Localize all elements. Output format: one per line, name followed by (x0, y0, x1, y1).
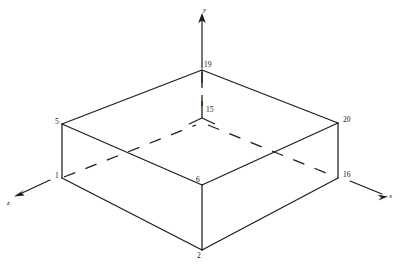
node-label-2: 2 (197, 252, 201, 260)
diagram-canvas (0, 0, 400, 264)
edge-1-15-hidden (64, 125, 196, 177)
x-axis-arrowhead (378, 195, 388, 201)
z-axis-line (22, 180, 50, 193)
node-label-6: 6 (196, 176, 200, 184)
node-label-5: 5 (55, 118, 59, 126)
axes-group (14, 13, 388, 201)
node-label-16: 16 (343, 171, 351, 179)
node-label-20: 20 (343, 116, 351, 124)
edge-19-20 (202, 70, 338, 123)
edge-6-20 (202, 123, 338, 185)
hidden-edges (64, 72, 336, 177)
edge-5-19 (62, 70, 202, 124)
axis-label-x: x (389, 193, 392, 200)
isometric-block-diagram: 19 15 5 20 1 16 6 2 y x z (0, 0, 400, 264)
axis-label-y: y (203, 7, 206, 14)
node-15-stub-right (202, 118, 215, 124)
node-label-1: 1 (55, 172, 59, 180)
edge-2-16 (202, 178, 338, 250)
edge-5-6 (62, 124, 202, 185)
node-label-15: 15 (206, 106, 214, 114)
node-15-stub-left (189, 118, 202, 124)
bottom-face-edges (62, 178, 338, 250)
axis-label-z: z (7, 200, 10, 207)
top-face-edges (62, 70, 338, 185)
edge-1-2 (62, 178, 202, 250)
node-label-19: 19 (204, 61, 212, 69)
x-axis-line (350, 181, 382, 194)
